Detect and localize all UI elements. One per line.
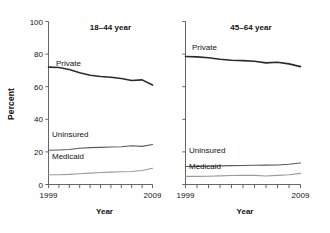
panel-1: 18–44 year02040608010019992009PrivateUni…	[30, 18, 162, 217]
y-tick-label: 60	[34, 83, 43, 92]
series-line-medicaid	[186, 173, 301, 176]
x-tick-label: 1999	[177, 191, 195, 200]
series-label-uninsured: Uninsured	[189, 146, 225, 155]
y-tick-label: 80	[34, 50, 43, 59]
y-axis-title: Percent	[6, 88, 16, 120]
series-line-private	[49, 67, 153, 85]
series-label-uninsured: Uninsured	[52, 130, 88, 139]
panel-2: 45–64 year19992009PrivateUninsuredMedica…	[177, 22, 310, 217]
figure-container: 18–44 year02040608010019992009PrivateUni…	[0, 0, 330, 233]
panel-title: 18–44 year	[90, 23, 131, 32]
y-tick-label: 20	[34, 148, 43, 157]
series-line-medicaid	[49, 168, 153, 175]
y-tick-label: 100	[30, 18, 44, 27]
panel-title: 45–64 year	[230, 23, 271, 32]
series-label-private: Private	[56, 59, 81, 68]
x-axis-title: Year	[237, 207, 254, 216]
dual-line-chart: 18–44 year02040608010019992009PrivateUni…	[0, 0, 330, 233]
series-label-medicaid: Medicaid	[189, 162, 221, 171]
y-tick-label: 0	[39, 181, 44, 190]
series-line-uninsured	[49, 145, 153, 151]
x-tick-label: 1999	[40, 191, 58, 200]
y-tick-label: 40	[34, 115, 43, 124]
series-line-private	[186, 57, 301, 67]
series-label-private: Private	[192, 43, 217, 52]
series-label-medicaid: Medicaid	[52, 152, 84, 161]
x-tick-label: 2009	[292, 191, 310, 200]
x-tick-label: 2009	[144, 191, 162, 200]
x-axis-title: Year	[96, 207, 113, 216]
